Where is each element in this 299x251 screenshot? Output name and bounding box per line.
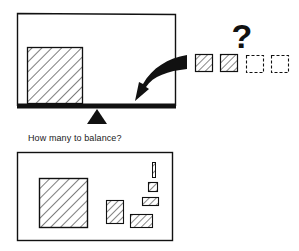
shape-large-square (40, 179, 88, 228)
balance-diagram: ? (0, 0, 299, 251)
candidate-unit-dashed-3 (247, 56, 264, 73)
shape-thin-bar (153, 163, 156, 178)
shape-medium-rectangle (107, 201, 124, 224)
balance-beam (17, 104, 176, 109)
left-weight-square (28, 48, 83, 104)
question-mark: ? (232, 17, 253, 55)
candidate-unit-hatched-2 (221, 55, 238, 72)
top-panel: ? (17, 14, 289, 125)
question-caption: How many to balance? (28, 133, 122, 143)
candidate-unit-dashed-4 (272, 56, 289, 73)
shape-small-square (149, 183, 158, 192)
curved-arrow-icon (135, 55, 187, 101)
bottom-panel (18, 153, 173, 241)
candidate-unit-hatched-1 (196, 55, 213, 72)
fulcrum-triangle-icon (87, 109, 107, 124)
shape-flat-rectangle (143, 198, 159, 206)
shape-wide-rectangle (131, 215, 153, 228)
